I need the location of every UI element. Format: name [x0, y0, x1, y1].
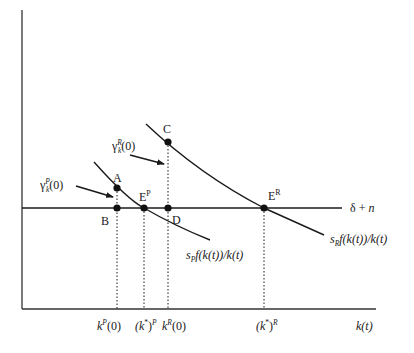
label-B: B [101, 214, 109, 228]
label-rich-curve: sRf(k(t))/k(t) [330, 232, 387, 248]
tick-kP0: kP(0) [97, 318, 121, 333]
point-B [113, 204, 120, 211]
label-poor-curve: sPf(k(t))/k(t) [186, 248, 243, 264]
label-ER: ER [268, 188, 281, 203]
label-C: C [163, 122, 171, 136]
label-gamma-R: γRk(0) [111, 138, 135, 155]
arrow-gamma-R [130, 155, 164, 164]
tick-kR0: kR(0) [162, 318, 186, 333]
point-C [164, 138, 171, 145]
point-A [113, 184, 120, 191]
label-D: D [172, 213, 181, 227]
arrow-gamma-P [76, 186, 113, 197]
label-delta-n: δ + n [350, 201, 374, 215]
x-axis-label: k(t) [356, 319, 373, 333]
poor-curve [94, 162, 210, 240]
tick-kstarR: (k*)R [256, 318, 278, 333]
growth-diagram: A B C D EP ER γPk(0) γRk(0) δ + n sPf(k(… [0, 0, 414, 353]
point-D [164, 204, 171, 211]
tick-kstarP: (k*)P [135, 318, 157, 333]
label-EP: EP [139, 189, 151, 204]
point-EP [140, 204, 147, 211]
point-ER [260, 204, 267, 211]
label-A: A [113, 171, 122, 185]
label-gamma-P: γPk(0) [39, 177, 63, 194]
